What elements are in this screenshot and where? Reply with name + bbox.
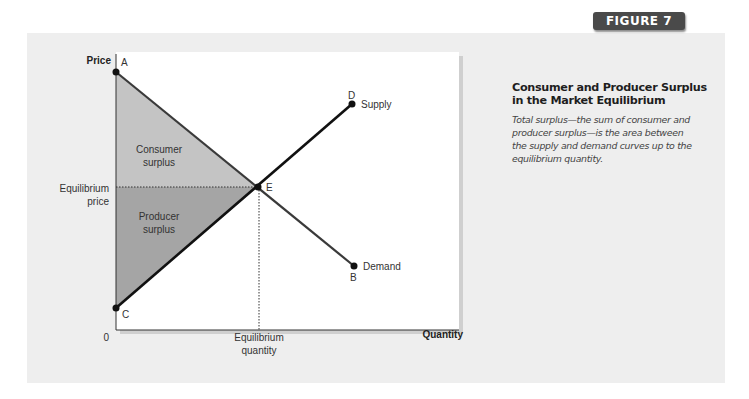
label-c: C [122, 309, 129, 320]
demand-label: Demand [363, 261, 401, 272]
label-d: D [348, 90, 355, 101]
caption-body-line-3: the supply and demand curves up to the [512, 139, 712, 152]
point-d [349, 101, 356, 108]
producer-surplus-label-2: surplus [143, 224, 175, 235]
caption-body-line-4: equilibrium quantity. [512, 152, 712, 165]
caption-title-line-2: in the Market Equilibrium [512, 94, 712, 107]
label-e: E [266, 182, 273, 193]
caption-title-line-1: Consumer and Producer Surplus [512, 81, 712, 94]
y-tick-equilibrium-price-2: price [87, 196, 109, 207]
point-c [113, 305, 120, 312]
caption-title: Consumer and Producer Surplus in the Mar… [512, 81, 712, 107]
x-axis-title: Quantity [422, 329, 463, 340]
caption-body: Total surplus—the sum of consumer and pr… [512, 113, 712, 165]
producer-surplus-label-1: Producer [139, 211, 180, 222]
point-b [351, 263, 358, 270]
x-tick-equilibrium-quantity-2: quantity [241, 345, 276, 356]
figure-caption: Consumer and Producer Surplus in the Mar… [512, 81, 712, 165]
consumer-surplus-label-2: surplus [143, 157, 175, 168]
caption-body-line-1: Total surplus—the sum of consumer and [512, 113, 712, 126]
point-a [113, 69, 120, 76]
supply-label: Supply [361, 99, 392, 110]
x-tick-equilibrium-quantity-1: Equilibrium [234, 332, 283, 343]
surplus-chart: A C E D B Supply Demand Consumer surplus… [0, 0, 749, 399]
y-axis-title: Price [87, 55, 112, 66]
point-e [255, 184, 262, 191]
y-tick-equilibrium-price-1: Equilibrium [60, 183, 109, 194]
caption-body-line-2: producer surplus—is the area between [512, 126, 712, 139]
origin-label: 0 [103, 332, 109, 343]
consumer-surplus-label-1: Consumer [136, 144, 183, 155]
label-b: B [350, 272, 357, 283]
label-a: A [121, 57, 128, 68]
